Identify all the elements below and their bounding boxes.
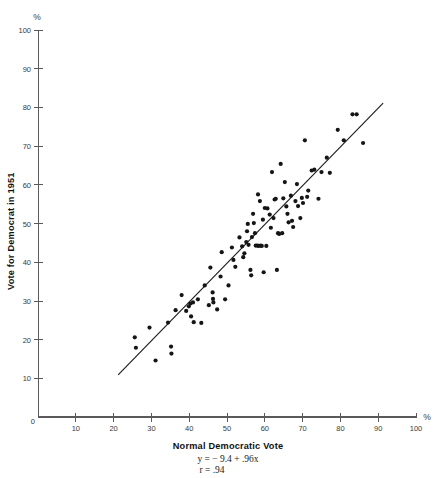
x-axis-tick-labels: 10 20 30 40 50 60 70 80 90 100 <box>72 424 423 433</box>
data-point <box>284 204 288 208</box>
x-tick-label: 80 <box>336 424 344 433</box>
y-tick-label: 20 <box>23 336 31 345</box>
data-point <box>295 182 299 186</box>
y-axis-tick-labels: 100 90 80 70 60 50 40 30 20 10 0 <box>18 26 35 426</box>
data-point <box>180 293 184 297</box>
data-point <box>242 251 246 255</box>
data-point <box>262 270 266 274</box>
data-point <box>241 255 245 259</box>
correlation-annotation: r = .94 <box>199 465 224 475</box>
data-point <box>305 195 309 199</box>
data-point <box>211 300 215 304</box>
data-point <box>169 351 173 355</box>
data-point <box>223 297 227 301</box>
data-point <box>350 112 354 116</box>
data-point <box>133 335 137 339</box>
scatter-plot-figure: 100 90 80 70 60 50 40 30 20 10 0 % <box>0 0 439 478</box>
data-point <box>285 212 289 216</box>
data-point <box>342 138 346 142</box>
data-point <box>275 268 279 272</box>
data-point <box>291 225 295 229</box>
data-point <box>208 266 212 270</box>
x-axis-percent-label: % <box>423 412 431 422</box>
x-tick-label: 10 <box>72 424 80 433</box>
data-point <box>231 258 235 262</box>
data-point <box>246 222 250 226</box>
data-point <box>211 290 215 294</box>
chart-svg: 100 90 80 70 60 50 40 30 20 10 0 % <box>0 0 439 478</box>
data-point <box>281 196 285 200</box>
x-tick-label: 30 <box>147 424 155 433</box>
data-point <box>134 346 138 350</box>
data-point <box>184 309 188 313</box>
x-tick-label: 20 <box>109 424 117 433</box>
data-point <box>230 245 234 249</box>
y-tick-label: 30 <box>23 297 31 306</box>
scatter-points-group <box>133 112 366 362</box>
data-point <box>258 199 262 203</box>
data-point <box>268 213 272 217</box>
data-point <box>250 235 254 239</box>
y-tick-label: 70 <box>23 142 31 151</box>
data-point <box>293 199 297 203</box>
data-point <box>199 321 203 325</box>
data-point <box>249 273 253 277</box>
data-point <box>264 244 268 248</box>
y-axis-title: Vote for Democrat in 1951 <box>6 172 16 290</box>
x-tick-label: 70 <box>298 424 306 433</box>
regression-line <box>118 103 383 375</box>
data-point <box>245 229 249 233</box>
data-point <box>265 206 269 210</box>
data-point <box>192 320 196 324</box>
data-point <box>328 171 332 175</box>
data-point <box>237 235 241 239</box>
data-point <box>303 138 307 142</box>
data-point <box>207 303 211 307</box>
x-tick-label: 100 <box>410 424 423 433</box>
data-point <box>240 244 244 248</box>
data-point <box>226 283 230 287</box>
data-point <box>279 162 283 166</box>
x-tick-label: 40 <box>185 424 193 433</box>
data-point <box>233 265 237 269</box>
data-point <box>319 170 323 174</box>
data-point <box>246 243 250 247</box>
data-point <box>260 244 264 248</box>
data-point <box>280 231 284 235</box>
data-point <box>300 196 304 200</box>
y-tick-label: 60 <box>23 181 31 190</box>
data-point <box>253 231 257 235</box>
data-point <box>336 128 340 132</box>
y-tick-label: 80 <box>23 103 31 112</box>
regression-equation-annotation: y = − 9.4 + .96x <box>197 454 258 464</box>
data-point <box>189 314 193 318</box>
y-axis-percent-label: % <box>33 12 41 22</box>
data-point <box>298 216 302 220</box>
data-point <box>355 112 359 116</box>
y-tick-label: 100 <box>18 26 31 35</box>
data-point <box>166 320 170 324</box>
data-point <box>147 326 151 330</box>
y-tick-label: 10 <box>23 374 31 383</box>
x-tick-label: 60 <box>261 424 269 433</box>
data-point <box>312 168 316 172</box>
data-point <box>256 192 260 196</box>
x-tick-label: 90 <box>374 424 382 433</box>
y-tick-label: 90 <box>23 65 31 74</box>
data-point <box>361 141 365 145</box>
x-tick-label: 50 <box>223 424 231 433</box>
data-point <box>196 297 200 301</box>
origin-label: 0 <box>31 417 35 426</box>
data-point <box>289 194 293 198</box>
data-point <box>271 216 275 220</box>
data-point <box>261 218 265 222</box>
data-point <box>290 219 294 223</box>
data-point <box>252 221 256 225</box>
data-point <box>203 283 207 287</box>
data-point <box>306 189 310 193</box>
data-point <box>220 250 224 254</box>
data-point <box>248 268 252 272</box>
data-point <box>301 201 305 205</box>
data-point <box>283 180 287 184</box>
data-point <box>215 307 219 311</box>
